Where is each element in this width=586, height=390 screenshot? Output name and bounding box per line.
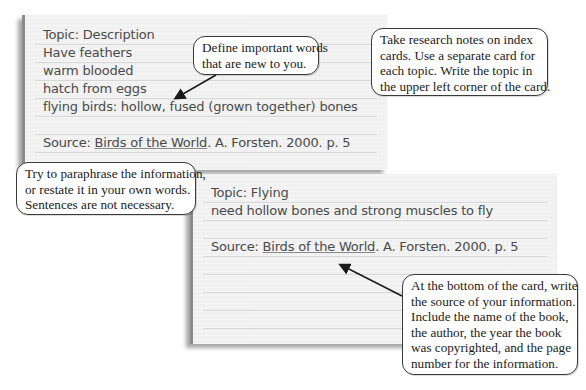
source-title: Birds of the World bbox=[263, 239, 376, 254]
callout-paraphrase: Try to paraphrase the information, or re… bbox=[16, 162, 196, 215]
rule-line bbox=[35, 116, 377, 117]
callout-text: the author, the year the book bbox=[411, 325, 569, 341]
card-note: warm blooded bbox=[43, 63, 133, 79]
callout-text: Try to paraphrase the information, bbox=[25, 166, 187, 182]
callout-text: Sentences are not necessary. bbox=[25, 197, 187, 213]
callout-text: At the bottom of the card, write bbox=[411, 278, 569, 294]
source-details: . A. Forsten. 2000. p. 5 bbox=[375, 239, 518, 254]
card-topic: Topic: Description bbox=[43, 27, 155, 43]
source-title: Birds of the World bbox=[95, 135, 208, 150]
card-source: Source: Birds of the World. A. Forsten. … bbox=[43, 135, 350, 151]
callout-text: cards. Use a separate card for bbox=[380, 48, 539, 64]
rule-line bbox=[35, 152, 377, 153]
callout-text: or restate it in your own words. bbox=[25, 182, 187, 198]
card-note: hatch from eggs bbox=[43, 81, 146, 97]
callout-source: At the bottom of the card, write the sou… bbox=[402, 274, 578, 375]
callout-text: Define important words bbox=[202, 40, 310, 56]
card-source: Source: Birds of the World. A. Forsten. … bbox=[211, 239, 518, 255]
callout-text: each topic. Write the topic in bbox=[380, 63, 539, 79]
rule-line bbox=[203, 256, 547, 257]
rule-line bbox=[203, 220, 547, 221]
callout-define-words: Define important words that are new to y… bbox=[193, 36, 319, 75]
card-note: flying birds: hollow, fused (grown toget… bbox=[43, 99, 358, 115]
callout-text: that are new to you. bbox=[202, 56, 310, 72]
source-label: Source: bbox=[43, 135, 95, 150]
card-topic: Topic: Flying bbox=[211, 185, 289, 201]
card-note: need hollow bones and strong muscles to … bbox=[211, 203, 493, 219]
callout-text: was copyrighted, and the page bbox=[411, 340, 569, 356]
callout-index-cards: Take research notes on index cards. Use … bbox=[371, 28, 548, 96]
card-note: Have feathers bbox=[43, 45, 132, 61]
callout-text: Include the name of the book, bbox=[411, 309, 569, 325]
callout-text: Take research notes on index bbox=[380, 32, 539, 48]
callout-text: the source of your information. bbox=[411, 294, 569, 310]
source-label: Source: bbox=[211, 239, 263, 254]
source-details: . A. Forsten. 2000. p. 5 bbox=[207, 135, 350, 150]
callout-text: the upper left corner of the card. bbox=[380, 79, 539, 95]
callout-text: number for the information. bbox=[411, 356, 569, 372]
